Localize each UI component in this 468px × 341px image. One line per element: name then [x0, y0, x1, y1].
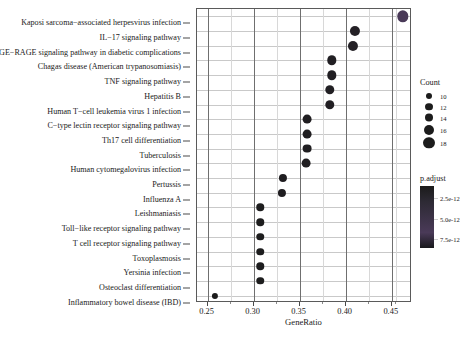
legend-count-label: 10	[440, 92, 447, 99]
x-axis-tick-label: 0.25	[199, 307, 214, 316]
y-axis-tick	[183, 229, 190, 230]
gridline-vertical-minor	[323, 9, 324, 301]
y-axis-tick-label: Influenza A	[143, 196, 181, 204]
legend-count-swatch	[423, 137, 434, 148]
data-point	[256, 263, 264, 271]
gridline-horizontal	[197, 60, 410, 61]
data-point	[303, 115, 312, 124]
y-axis-tick-label: Human cytomegalovirus infection	[70, 166, 181, 174]
legend-count-swatch	[426, 92, 432, 98]
gridline-horizontal	[197, 105, 410, 106]
data-point	[397, 11, 408, 22]
data-point	[212, 293, 218, 299]
y-axis-tick-label: Osteoclast differentiation	[99, 284, 181, 292]
x-axis-tick	[253, 302, 254, 306]
gridline-vertical-major	[392, 9, 393, 301]
y-axis-tick	[183, 214, 190, 215]
gridline-horizontal	[197, 90, 410, 91]
gridline-vertical-minor	[277, 9, 278, 301]
colorbar-tick-label: 2.5e-12	[440, 195, 460, 202]
y-axis-tick-label: Yersinia infection	[124, 269, 181, 277]
x-axis-tick-label: 0.45	[383, 307, 398, 316]
data-point	[256, 218, 264, 226]
legend-count-label: 12	[440, 103, 447, 110]
legend-count-label: 16	[440, 126, 447, 133]
y-axis-tick	[183, 82, 190, 83]
gridline-horizontal	[197, 16, 410, 17]
legend-count-swatch	[425, 103, 433, 111]
data-point	[350, 26, 360, 36]
gridline-vertical-minor	[369, 9, 370, 301]
legend-count-title: Count	[420, 78, 440, 87]
y-axis-tick-label: Tuberculosis	[139, 152, 181, 160]
gridline-vertical-minor	[231, 9, 232, 301]
x-axis-tick-minor	[276, 302, 277, 304]
gridline-horizontal	[197, 266, 410, 267]
colorbar-tick-label: 5.0e-12	[440, 215, 460, 222]
data-point	[256, 233, 264, 241]
plot-area	[196, 8, 411, 302]
x-axis-tick-label: 0.35	[291, 307, 306, 316]
gridline-horizontal	[197, 207, 410, 208]
x-axis-tick-label: 0.40	[337, 307, 352, 316]
gridline-vertical-major	[208, 9, 209, 301]
y-axis-tick	[183, 185, 190, 186]
gridline-vertical-major	[300, 9, 301, 301]
y-axis-tick	[183, 273, 190, 274]
legend-count-item: 14	[420, 112, 440, 123]
y-axis-tick	[183, 38, 190, 39]
gridline-vertical-major	[254, 9, 255, 301]
x-axis-tick-minor	[368, 302, 369, 304]
y-axis-tick-label: Th17 cell differentiation	[102, 137, 181, 145]
x-axis-title: GeneRatio	[196, 317, 411, 327]
x-axis-tick	[391, 302, 392, 306]
legend-count-label: 14	[440, 114, 447, 121]
y-axis-tick-label: Hepatitis B	[144, 93, 181, 101]
legend-count-item: 18	[420, 136, 440, 150]
x-axis-tick	[207, 302, 208, 306]
y-axis-tick	[183, 126, 190, 127]
y-axis-tick	[183, 258, 190, 259]
legend-count-item: 10	[420, 90, 440, 101]
gridline-horizontal	[197, 193, 410, 194]
data-point	[256, 204, 264, 212]
x-axis-tick	[345, 302, 346, 306]
data-point	[325, 100, 334, 109]
gridline-vertical-minor	[396, 9, 397, 301]
y-axis-tick	[183, 199, 190, 200]
y-axis-tick-label: Pertussis	[152, 181, 181, 189]
y-axis-tick-label: Toll−like receptor signaling pathway	[62, 225, 181, 233]
y-axis-tick-label: Inflammatory bowel disease (IBD)	[68, 299, 181, 307]
legend-count: Count 1012141618	[420, 78, 440, 150]
colorbar-gradient	[420, 186, 434, 248]
gridline-horizontal	[197, 178, 410, 179]
legend-count-swatch	[425, 113, 434, 122]
data-point	[325, 85, 334, 94]
legend-count-items: 1012141618	[420, 90, 440, 150]
y-axis-tick-label: Toxoplasmosis	[133, 255, 181, 263]
y-axis-tick	[183, 287, 190, 288]
x-axis-tick	[299, 302, 300, 306]
data-point	[348, 41, 358, 51]
legend-count-swatch	[424, 125, 434, 135]
legend-count-item: 12	[420, 101, 440, 112]
gridline-horizontal	[197, 75, 410, 76]
y-axis-tick	[183, 302, 190, 303]
y-axis-tick-label: Human T−cell leukemia virus 1 infection	[47, 108, 181, 116]
x-axis-tick-label: 0.30	[245, 307, 260, 316]
y-axis-tick	[183, 155, 190, 156]
y-axis-tick-label: IL−17 signaling pathway	[100, 34, 181, 42]
y-axis-tick	[183, 243, 190, 244]
gridline-horizontal	[197, 237, 410, 238]
gridline-horizontal	[197, 296, 410, 297]
y-axis-tick	[183, 52, 190, 53]
legend-padjust: p.adjust 2.5e-125.0e-127.5e-12	[420, 174, 446, 248]
y-axis-tick-label: AGE−RAGE signaling pathway in diabetic c…	[0, 49, 181, 57]
gridline-horizontal	[197, 281, 410, 282]
data-point	[327, 56, 336, 65]
data-point	[303, 130, 312, 139]
x-axis-tick-minor	[322, 302, 323, 304]
y-axis-tick-label: C−type lectin receptor signaling pathway	[47, 122, 181, 130]
y-axis-tick-label: TNF signaling pathway	[105, 78, 181, 86]
y-axis-tick-label: Kaposi sarcoma−associated herpesvirus in…	[21, 19, 181, 27]
